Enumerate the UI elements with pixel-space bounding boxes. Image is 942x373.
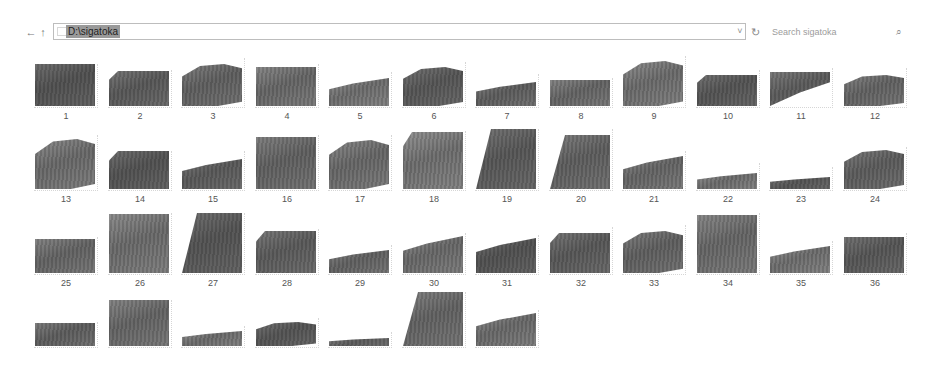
- thumbnail-image[interactable]: [549, 78, 613, 108]
- leaf-sample-image: [35, 239, 95, 273]
- thumbnail-image[interactable]: [328, 332, 392, 348]
- leaf-sample-image: [35, 139, 95, 189]
- leaf-sample-image: [550, 135, 610, 189]
- thumbnail-image[interactable]: [255, 135, 319, 191]
- thumbnail-label: 27: [181, 278, 245, 288]
- thumbnail-image[interactable]: [108, 70, 172, 108]
- thumbnail-image[interactable]: [181, 58, 245, 108]
- leaf-sample-image: [109, 151, 169, 189]
- thumbnail-label: 14: [108, 194, 172, 204]
- thumbnail-image[interactable]: [108, 213, 172, 275]
- thumbnail-image[interactable]: [843, 233, 907, 275]
- thumbnail-label: 7: [475, 111, 539, 121]
- leaf-sample-image: [109, 300, 169, 346]
- thumbnail-image[interactable]: [402, 62, 466, 108]
- thumbnail-label: 5: [328, 111, 392, 121]
- thumbnail-image[interactable]: [255, 318, 319, 348]
- leaf-sample-image: [403, 292, 463, 346]
- thumbnail-image[interactable]: [34, 237, 98, 275]
- leaf-sample-image: [403, 236, 463, 273]
- leaf-sample-image: [256, 67, 316, 106]
- leaf-sample-image: [35, 323, 95, 346]
- thumbnail-image[interactable]: [181, 326, 245, 348]
- leaf-sample-image: [844, 75, 904, 106]
- thumbnail-image[interactable]: [475, 74, 539, 108]
- thumbnail-label: 8: [549, 111, 613, 121]
- thumbnail-image[interactable]: [622, 56, 686, 108]
- thumbnail-image[interactable]: [402, 292, 466, 348]
- thumbnail-label: 32: [549, 278, 613, 288]
- leaf-sample-image: [329, 338, 389, 346]
- thumbnail-image[interactable]: [549, 129, 613, 191]
- thumbnail-image[interactable]: [255, 229, 319, 275]
- thumbnail-label: 29: [328, 278, 392, 288]
- thumbnail-image[interactable]: [843, 68, 907, 108]
- thumbnail-label: 28: [255, 278, 319, 288]
- leaf-sample-image: [697, 75, 757, 106]
- thumbnail-image[interactable]: [328, 135, 392, 191]
- thumbnail-label: 19: [475, 194, 539, 204]
- thumbnail-label: 25: [34, 278, 98, 288]
- thumbnail-image[interactable]: [622, 151, 686, 191]
- thumbnail-image[interactable]: [255, 64, 319, 108]
- thumbnail-label: 1: [34, 111, 98, 121]
- leaf-sample-image: [403, 67, 463, 106]
- leaf-sample-image: [182, 64, 242, 106]
- thumbnail-image[interactable]: [696, 163, 760, 191]
- thumbnail-image[interactable]: [769, 68, 833, 108]
- thumbnail-image[interactable]: [475, 129, 539, 191]
- leaf-sample-image: [844, 237, 904, 273]
- thumbnail-image[interactable]: [108, 151, 172, 191]
- thumbnail-image[interactable]: [34, 64, 98, 108]
- leaf-sample-image: [550, 233, 610, 273]
- thumbnail-image[interactable]: [34, 135, 98, 191]
- thumbnail-label: 13: [34, 194, 98, 204]
- thumbnail-image[interactable]: [475, 235, 539, 275]
- thumbnail-label: 15: [181, 194, 245, 204]
- leaf-sample-image: [476, 313, 536, 346]
- leaf-sample-image: [256, 137, 316, 189]
- leaf-sample-image: [329, 140, 389, 189]
- leaf-sample-image: [770, 246, 830, 273]
- thumbnail-image[interactable]: [108, 300, 172, 348]
- thumbnail-image[interactable]: [475, 310, 539, 348]
- thumbnail-image[interactable]: [769, 167, 833, 191]
- leaf-sample-image: [329, 250, 389, 273]
- leaf-sample-image: [403, 132, 463, 189]
- leaf-sample-image: [476, 82, 536, 106]
- leaf-sample-image: [256, 231, 316, 273]
- thumbnail-image[interactable]: [402, 233, 466, 275]
- leaf-sample-image: [182, 159, 242, 189]
- thumbnail-image[interactable]: [769, 241, 833, 275]
- thumbnail-image[interactable]: [549, 227, 613, 275]
- thumbnail-image[interactable]: [328, 245, 392, 275]
- thumbnail-label: 17: [328, 194, 392, 204]
- thumbnail-label: 22: [696, 194, 760, 204]
- thumbnail-image[interactable]: [402, 131, 466, 191]
- thumbnail-label: 31: [475, 278, 539, 288]
- leaf-sample-image: [256, 322, 316, 346]
- thumbnail-image[interactable]: [696, 213, 760, 275]
- thumbnail-image[interactable]: [843, 147, 907, 191]
- thumbnail-label: 33: [622, 278, 686, 288]
- leaf-sample-image: [697, 173, 757, 189]
- leaf-sample-image: [182, 213, 242, 273]
- thumbnail-image[interactable]: [181, 151, 245, 191]
- leaf-sample-image: [550, 80, 610, 106]
- leaf-sample-image: [697, 215, 757, 273]
- thumbnail-label: 16: [255, 194, 319, 204]
- thumbnail-label: 26: [108, 278, 172, 288]
- thumbnail-label: 18: [402, 194, 466, 204]
- thumbnail-label: 3: [181, 111, 245, 121]
- thumbnail-image[interactable]: [696, 70, 760, 108]
- leaf-sample-image: [109, 71, 169, 106]
- thumbnail-image[interactable]: [328, 72, 392, 108]
- leaf-sample-image: [182, 331, 242, 346]
- thumbnail-image[interactable]: [181, 213, 245, 275]
- thumbnail-label: 9: [622, 111, 686, 121]
- thumbnail-label: 34: [696, 278, 760, 288]
- thumbnail-image[interactable]: [34, 322, 98, 348]
- leaf-sample-image: [770, 72, 830, 106]
- thumbnail-image[interactable]: [622, 225, 686, 275]
- leaf-sample-image: [109, 214, 169, 273]
